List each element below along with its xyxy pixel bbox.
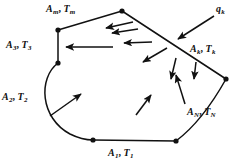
vertex-dot-right bbox=[223, 76, 228, 81]
label-Tk-temp-sub: k bbox=[212, 48, 216, 56]
label-Am-area-sub: m bbox=[53, 8, 59, 16]
label-qk: qk bbox=[216, 4, 225, 14]
label-T2-temp: T bbox=[18, 91, 24, 102]
vertex-dot-bottom-right bbox=[173, 138, 178, 143]
vertex-dot-top bbox=[119, 8, 124, 13]
arrow-interior-8 bbox=[176, 75, 185, 104]
arrow-interior-2 bbox=[112, 29, 138, 33]
arrow-qk-incident bbox=[178, 16, 214, 39]
label-T2-temp-sub: 2 bbox=[24, 96, 28, 104]
label-Tk-temp: T bbox=[206, 43, 212, 54]
label-A2-T2: A2, T2 bbox=[2, 92, 28, 102]
interior-arrows-group bbox=[50, 22, 196, 116]
label-A1-area: A bbox=[108, 147, 115, 158]
label-A1-area-sub: 1 bbox=[115, 152, 119, 160]
label-qk-sub: k bbox=[221, 8, 225, 16]
label-A2-area-sub: 2 bbox=[9, 96, 13, 104]
label-Am-area: A bbox=[46, 3, 53, 14]
label-A3-area: A bbox=[6, 39, 13, 50]
label-A1-T1: A1, T1 bbox=[108, 148, 134, 158]
label-A3-T3: A3, T3 bbox=[6, 40, 32, 50]
arrow-interior-7 bbox=[194, 62, 196, 79]
arrow-interior-6 bbox=[171, 58, 176, 79]
label-Ak-Tk: Ak, Tk bbox=[190, 44, 216, 54]
label-A3-area-sub: 3 bbox=[13, 44, 17, 52]
external-arrow-group bbox=[178, 16, 214, 39]
label-T1-temp: T bbox=[124, 147, 130, 158]
enclosure-outline-group bbox=[45, 11, 226, 141]
vertex-dot-left-lower bbox=[55, 60, 60, 65]
arrow-interior-10 bbox=[50, 94, 81, 116]
label-Am-Tm: Am, Tm bbox=[46, 4, 76, 14]
enclosure-vertex-dots bbox=[55, 8, 228, 143]
label-Tm-temp-sub: m bbox=[70, 8, 76, 16]
enclosure-outline bbox=[45, 11, 226, 141]
label-Ak-area-sub: k bbox=[197, 48, 201, 56]
arrow-interior-5 bbox=[143, 48, 167, 62]
label-A2-area: A bbox=[2, 91, 9, 102]
arrow-interior-1 bbox=[106, 22, 133, 28]
label-AN-area-sub: N bbox=[194, 111, 199, 119]
label-T3-temp: T bbox=[22, 39, 28, 50]
vertex-dot-upper-left bbox=[55, 27, 60, 32]
label-AN-area: A bbox=[187, 106, 194, 117]
label-Tm-temp: T bbox=[64, 3, 70, 14]
vertex-dot-bottom-left bbox=[90, 137, 95, 142]
label-Ak-area: A bbox=[190, 43, 197, 54]
label-TN-temp-sub: N bbox=[210, 111, 215, 119]
label-T3-temp-sub: 3 bbox=[28, 44, 32, 52]
label-T1-temp-sub: 1 bbox=[130, 152, 134, 160]
arrow-interior-3 bbox=[124, 42, 152, 43]
arrow-interior-9 bbox=[136, 95, 151, 115]
label-AN-TN: AN, TN bbox=[187, 107, 216, 117]
enclosure-svg bbox=[0, 0, 248, 164]
